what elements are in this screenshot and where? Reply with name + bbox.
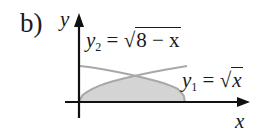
sqrt-icon: √x — [220, 70, 243, 91]
y2-var: y — [86, 28, 95, 52]
y2-subscript: 2 — [95, 40, 101, 54]
y1-radicand: x — [231, 67, 242, 92]
y1-subscript: 1 — [191, 80, 197, 94]
shaded-region — [79, 76, 185, 102]
figure: b) y x y2 = √8 − x y1 = √x — [0, 0, 266, 138]
sqrt-icon: √8 − x — [124, 30, 181, 51]
y1-equals: = — [203, 68, 215, 92]
x-axis-label: x — [235, 111, 244, 132]
x-axis-arrow-icon — [237, 97, 250, 107]
y-axis-label: y — [60, 9, 69, 30]
equation-y2: y2 = √8 − x — [86, 30, 181, 53]
y2-radicand: 8 − x — [135, 27, 180, 52]
part-label: b) — [20, 10, 43, 37]
y1-var: y — [182, 68, 191, 92]
y2-equals: = — [107, 28, 119, 52]
equation-y1: y1 = √x — [182, 70, 243, 93]
y-axis-arrow-icon — [74, 13, 84, 27]
